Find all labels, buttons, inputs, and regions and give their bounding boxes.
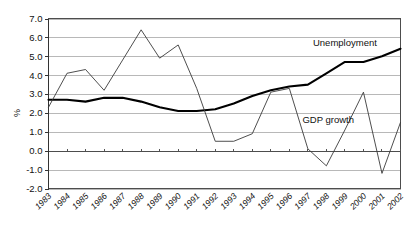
x-tick-label: 1994 — [237, 191, 258, 212]
x-tick-label: 1998 — [311, 191, 332, 212]
series-label-gdp-growth: GDP growth — [302, 114, 354, 125]
y-tick-labels: 7.06.05.04.03.02.01.00.0-1.0-2.0 — [26, 13, 42, 194]
y-tick-label: -2.0 — [26, 183, 42, 194]
y-tick-label: 6.0 — [29, 32, 42, 43]
x-tick-label: 1988 — [125, 191, 146, 212]
x-tick-label: 2000 — [347, 191, 368, 212]
y-tick-label: 7.0 — [29, 13, 42, 24]
y-tick-label: 2.0 — [29, 107, 42, 118]
x-tick-label: 1993 — [218, 191, 239, 212]
x-tick-label: 2002 — [384, 191, 405, 212]
series-line-unemployment — [49, 49, 401, 111]
y-tick-label: 1.0 — [29, 126, 42, 137]
x-tick-label: 1991 — [181, 191, 202, 212]
series-label-unemployment: Unemployment — [313, 37, 377, 48]
y-axis — [45, 19, 49, 190]
y-axis-title: % — [12, 109, 22, 117]
x-tick-label: 1989 — [144, 191, 165, 212]
x-tick-label: 1986 — [88, 191, 109, 212]
x-tick-label: 1996 — [274, 191, 295, 212]
x-tick-labels: 1983198419851986198719881989199019911992… — [33, 190, 406, 212]
x-tick-label: 1992 — [200, 191, 221, 212]
x-tick-label: 1999 — [329, 191, 350, 212]
x-tick-label: 1995 — [255, 191, 276, 212]
x-tick-label: 2001 — [366, 191, 387, 212]
x-tick-label: 1984 — [51, 191, 72, 212]
y-tick-label: 0.0 — [29, 145, 42, 156]
x-tick-label: 1990 — [162, 191, 183, 212]
zero-line — [49, 149, 401, 152]
line-chart: 7.06.05.04.03.02.01.00.0-1.0-2.0 1983198… — [0, 0, 420, 239]
chart-container: 7.06.05.04.03.02.01.00.0-1.0-2.0 1983198… — [0, 0, 420, 239]
y-tick-label: -1.0 — [26, 164, 42, 175]
y-tick-label: 4.0 — [29, 70, 42, 81]
x-tick-label: 1997 — [292, 190, 313, 211]
y-tick-label: 3.0 — [29, 88, 42, 99]
x-tick-label: 1987 — [107, 190, 128, 211]
y-tick-label: 5.0 — [29, 51, 42, 62]
x-tick-label: 1985 — [70, 191, 91, 212]
